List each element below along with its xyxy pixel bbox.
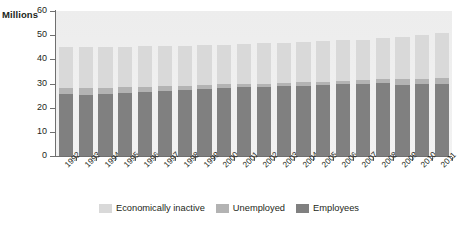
bar-segment-unemployed [415, 79, 429, 85]
bar-segment-economically-inactive [197, 45, 211, 85]
bar-segment-employees [376, 83, 390, 156]
y-axis-tick [50, 59, 55, 60]
bar-segment-employees [59, 94, 73, 156]
legend-label: Unemployed [233, 203, 285, 213]
bar-group[interactable] [217, 11, 231, 156]
legend-label: Economically inactive [116, 203, 205, 213]
bar-segment-economically-inactive [178, 46, 192, 86]
bar-segment-unemployed [217, 84, 231, 88]
bar-segment-unemployed [356, 80, 370, 84]
bar-segment-economically-inactive [118, 47, 132, 88]
y-axis-tick [50, 11, 55, 12]
bar-group[interactable] [79, 11, 93, 156]
y-axis-tick [50, 132, 55, 133]
y-axis-label: 0 [25, 151, 47, 160]
y-axis-label: 30 [25, 79, 47, 88]
bar-segment-unemployed [435, 78, 449, 84]
bar-group[interactable] [395, 11, 409, 156]
bar-group[interactable] [336, 11, 350, 156]
bar-group[interactable] [59, 11, 73, 156]
bar-segment-employees [158, 91, 172, 156]
bar-group[interactable] [296, 11, 310, 156]
bar-group[interactable] [138, 11, 152, 156]
bar-segment-employees [257, 87, 271, 156]
y-axis-tick [50, 108, 55, 109]
y-axis-tick [50, 35, 55, 36]
bar-segment-employees [79, 95, 93, 156]
plot-area [56, 11, 452, 156]
bar-segment-economically-inactive [98, 47, 112, 88]
bar-segment-economically-inactive [237, 44, 251, 84]
bar-group[interactable] [316, 11, 330, 156]
bar-group[interactable] [197, 11, 211, 156]
y-axis-label: 50 [25, 30, 47, 39]
bar-segment-economically-inactive [158, 46, 172, 86]
bar-segment-employees [98, 94, 112, 156]
legend-swatch-icon [99, 204, 112, 213]
bar-segment-economically-inactive [316, 41, 330, 81]
bar-segment-unemployed [296, 82, 310, 85]
bar-segment-employees [435, 84, 449, 156]
bar-group[interactable] [356, 11, 370, 156]
y-axis-line [55, 10, 56, 157]
legend-label: Employees [313, 203, 359, 213]
bar-group[interactable] [376, 11, 390, 156]
bar-segment-unemployed [316, 82, 330, 85]
y-axis-label: 10 [25, 127, 47, 136]
bar-segment-employees [237, 87, 251, 156]
bar-segment-economically-inactive [217, 45, 231, 84]
bar-segment-economically-inactive [277, 43, 291, 83]
y-axis-label: 20 [25, 103, 47, 112]
legend-item[interactable]: Employees [296, 203, 359, 213]
bar-segment-unemployed [79, 88, 93, 95]
bar-segment-employees [395, 85, 409, 156]
bar-segment-unemployed [336, 81, 350, 85]
bar-segment-employees [217, 88, 231, 156]
legend-swatch-icon [216, 204, 229, 213]
bar-segment-employees [296, 86, 310, 156]
bar-segment-economically-inactive [336, 40, 350, 80]
bar-group[interactable] [237, 11, 251, 156]
bar-segment-unemployed [118, 87, 132, 93]
bar-segment-unemployed [197, 85, 211, 89]
bar-segment-economically-inactive [257, 43, 271, 83]
bar-segment-unemployed [257, 84, 271, 88]
bar-segment-economically-inactive [296, 42, 310, 82]
stacked-bar-chart: Millions 0102030405060 19921993199419951… [0, 0, 458, 225]
bar-segment-economically-inactive [59, 47, 73, 87]
bar-segment-economically-inactive [138, 46, 152, 87]
bar-group[interactable] [98, 11, 112, 156]
bar-group[interactable] [118, 11, 132, 156]
bar-segment-employees [197, 89, 211, 156]
bar-group[interactable] [415, 11, 429, 156]
y-axis-label: 40 [25, 54, 47, 63]
bar-segment-economically-inactive [376, 38, 390, 79]
bar-segment-employees [356, 84, 370, 156]
bar-segment-economically-inactive [395, 37, 409, 79]
bar-group[interactable] [178, 11, 192, 156]
bar-group[interactable] [158, 11, 172, 156]
bar-segment-economically-inactive [79, 47, 93, 88]
bar-segment-economically-inactive [435, 33, 449, 78]
bar-group[interactable] [277, 11, 291, 156]
bar-segment-economically-inactive [356, 40, 370, 80]
bar-segment-unemployed [98, 88, 112, 94]
legend-item[interactable]: Unemployed [216, 203, 285, 213]
bar-segment-employees [336, 84, 350, 156]
legend-item[interactable]: Economically inactive [99, 203, 205, 213]
chart-legend: Economically inactiveUnemployedEmployees [0, 203, 458, 213]
bar-segment-unemployed [178, 86, 192, 90]
bar-segment-unemployed [277, 83, 291, 86]
y-axis-label: 60 [25, 6, 47, 15]
y-axis-tick [50, 156, 55, 157]
y-axis-tick [50, 84, 55, 85]
bar-segment-unemployed [395, 79, 409, 85]
bar-segment-unemployed [237, 84, 251, 87]
bar-segment-employees [178, 90, 192, 156]
bar-segment-unemployed [376, 79, 390, 83]
bar-segment-unemployed [59, 88, 73, 95]
bar-segment-employees [277, 86, 291, 156]
bar-segment-employees [316, 85, 330, 156]
bar-group[interactable] [257, 11, 271, 156]
bar-group[interactable] [435, 11, 449, 156]
